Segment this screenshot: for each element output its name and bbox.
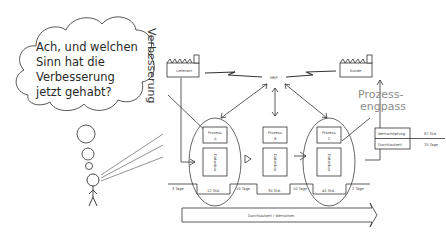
- value-stream-diagram: Ach, und welchen Sinn hat die Verbesseru…: [0, 0, 446, 234]
- bottleneck-label-line2: engpass: [360, 100, 406, 113]
- stick-figure: [87, 174, 99, 206]
- customer-label: Kunde: [350, 69, 362, 73]
- flow-arrow-label: Durchlaufzeit / Wertstrom: [248, 214, 295, 218]
- summary-value-1: 87 Std.: [424, 132, 437, 136]
- mrp-label: MRP: [270, 76, 279, 80]
- process-time-2: 30 Std.: [268, 189, 281, 193]
- process-c-databox: Datenbox: [327, 154, 331, 172]
- info-arrows: [221, 84, 327, 118]
- process-b-title: Prozess: [268, 131, 282, 135]
- wait-time-1: 3 Tage: [172, 187, 185, 191]
- wait-time-2: 10 Tage: [236, 187, 251, 191]
- process-time-1: 12 Std.: [207, 189, 220, 193]
- thought-line-4: jetzt gehabt?: [35, 85, 112, 99]
- thought-line-3: Verbesserung: [36, 70, 115, 84]
- summary-value-2: 25 Tage: [424, 143, 439, 147]
- summary-label-2: Durchlaufzeit: [378, 143, 403, 147]
- supplier-label: Lieferant: [176, 69, 193, 73]
- process-time-3: 45 Std.: [322, 189, 335, 193]
- sight-lines-icon: [101, 134, 163, 181]
- summary-label-1: Wertschöpfung: [378, 132, 405, 136]
- side-label-verbesserung: Verbesserung: [145, 28, 158, 103]
- supplier-factory-icon: [167, 55, 199, 77]
- process-a-databox: Datenbox: [213, 154, 217, 172]
- process-b-databox: Datenbox: [273, 154, 277, 172]
- wait-time-4: 2 Tage: [352, 187, 365, 191]
- thought-line-1: Ach, und welchen: [36, 40, 138, 54]
- process-c-title: Prozess: [322, 131, 336, 135]
- wait-time-3: 10 Tage: [293, 187, 308, 191]
- process-a-title: Prozess: [208, 131, 222, 135]
- thought-line-2: Sinn hat die: [36, 55, 105, 69]
- customer-factory-icon: [340, 55, 372, 77]
